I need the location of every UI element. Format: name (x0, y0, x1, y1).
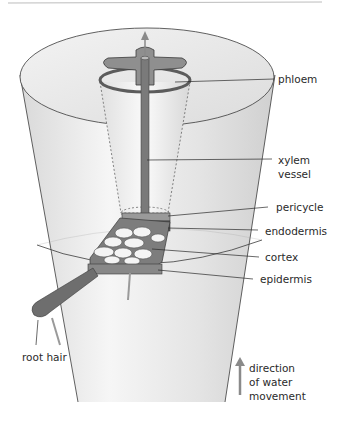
cortex-cell (133, 227, 151, 237)
label-direction-line3: movement (249, 389, 306, 403)
cortex-cell (151, 234, 165, 242)
label-endodermis: endodermis (265, 224, 327, 238)
cortex-cell (124, 238, 144, 248)
label-xylem-line2: vessel (278, 167, 311, 181)
label-root-hair: root hair (22, 350, 67, 364)
cortex-cell (104, 256, 120, 264)
cortex-cell (104, 237, 122, 247)
label-cortex: cortex (265, 250, 298, 264)
label-epidermis: epidermis (260, 272, 312, 286)
xylem-vessel-column (141, 58, 149, 218)
label-phloem: phloem (278, 72, 317, 86)
cortex-cell (94, 247, 114, 257)
xylem-vessel-top (141, 56, 149, 60)
label-pericycle: pericycle (276, 200, 324, 214)
root-diagram: phloem xylem vessel pericycle endodermis… (0, 0, 338, 423)
label-direction-line2: of water (249, 375, 292, 389)
leader-root-hair (36, 320, 38, 345)
top-rule (8, 2, 322, 3)
hair-strand (52, 318, 60, 345)
cortex-cell (115, 228, 133, 238)
label-direction-line1: direction (249, 361, 295, 375)
epidermis-strip (88, 264, 162, 274)
direction-arrow-head (235, 357, 245, 366)
label-xylem-line1: xylem (278, 153, 310, 167)
